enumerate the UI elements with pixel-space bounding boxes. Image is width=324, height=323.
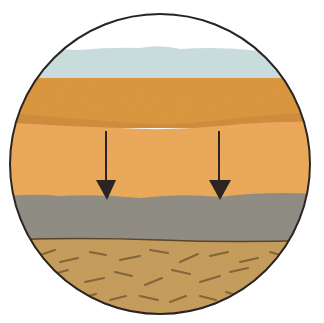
soil-diagram [0, 0, 324, 323]
